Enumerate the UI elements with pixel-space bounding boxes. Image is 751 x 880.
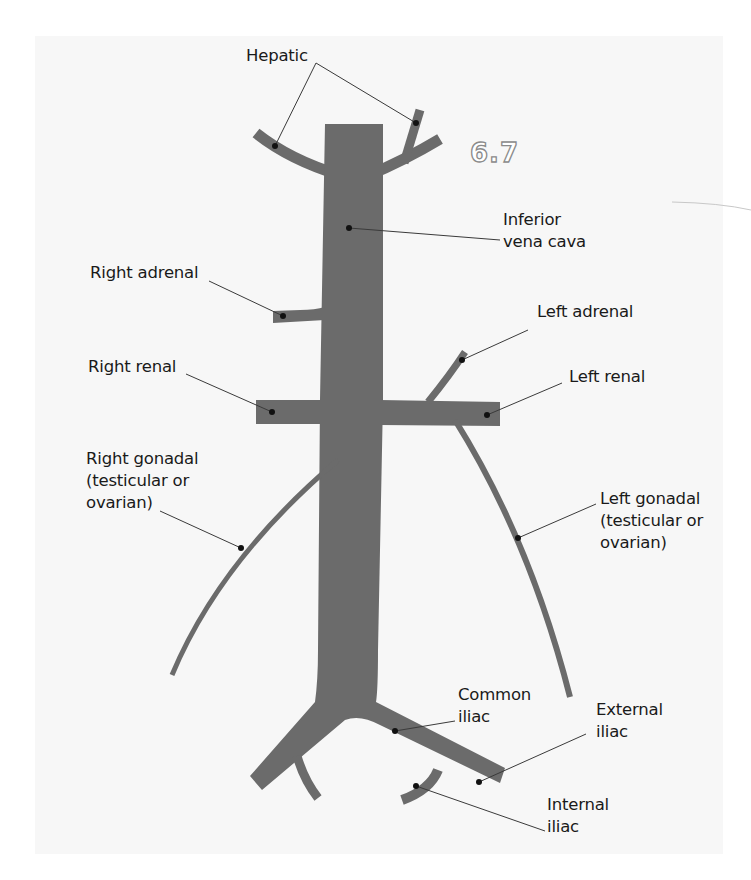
label-left-adrenal: Left adrenal	[537, 302, 633, 321]
figure-number: 6.7	[470, 138, 519, 168]
label-external-iliac: External iliac	[596, 700, 668, 741]
label-right-gonadal: Right gonadal (testicular or ovarian)	[86, 449, 203, 512]
label-common-iliac: Common iliac	[458, 685, 536, 726]
ivc-diagram: 6.7 Hepatic Inferior vena cava Right adr…	[0, 0, 751, 880]
label-right-adrenal: Right adrenal	[90, 263, 198, 282]
label-left-gonadal: Left gonadal (testicular or ovarian)	[600, 489, 708, 552]
left-internal-iliac-vein	[402, 770, 438, 800]
left-gonadal-vein	[455, 420, 570, 697]
right-gonadal-vein	[172, 460, 338, 675]
right-internal-iliac-vein	[297, 756, 318, 798]
edge-artifact-line	[672, 202, 751, 210]
label-right-renal: Right renal	[88, 357, 176, 376]
label-inferior-vena-cava: Inferior vena cava	[503, 210, 586, 251]
left-renal-vein	[380, 400, 500, 426]
label-left-renal: Left renal	[569, 367, 645, 386]
right-renal-vein	[256, 400, 325, 424]
label-hepatic: Hepatic	[246, 46, 308, 65]
label-internal-iliac: Internal iliac	[547, 795, 614, 836]
